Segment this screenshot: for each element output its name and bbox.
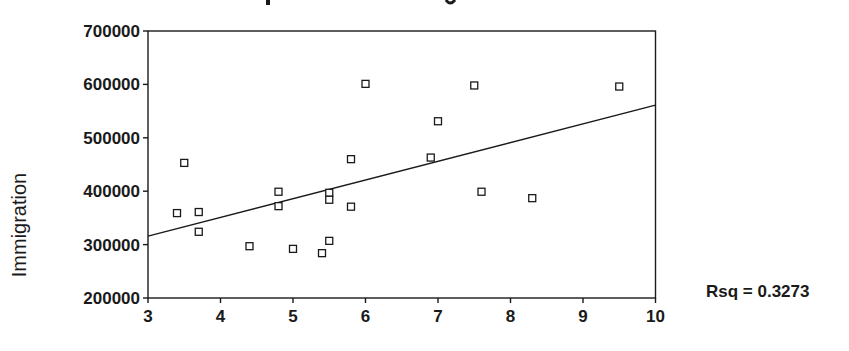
x-tick-label: 7 <box>433 307 442 326</box>
data-point-marker <box>478 188 485 195</box>
data-point-marker <box>427 154 434 161</box>
x-tick-label: 6 <box>361 307 370 326</box>
y-axis-label: Immigration <box>8 173 30 277</box>
data-point-marker <box>319 250 326 257</box>
y-tick-label: 300000 <box>83 236 140 255</box>
data-points <box>174 80 623 256</box>
data-point-marker <box>290 245 297 252</box>
data-point-marker <box>326 189 333 196</box>
plot-frame <box>148 31 656 298</box>
scatter-chart: 200000300000400000500000600000700000 345… <box>0 0 849 351</box>
y-tick-label: 200000 <box>83 289 140 308</box>
x-tick-label: 8 <box>506 307 515 326</box>
data-point-marker <box>348 203 355 210</box>
data-point-marker <box>174 210 181 217</box>
data-point-marker <box>435 118 442 125</box>
x-tick-label: 5 <box>288 307 297 326</box>
x-axis: 345678910 <box>143 298 665 326</box>
title-cropped <box>266 0 455 5</box>
x-tick-label: 10 <box>646 307 665 326</box>
data-point-marker <box>181 159 188 166</box>
rsq-annotation: Rsq = 0.3273 <box>706 282 810 301</box>
data-point-marker <box>326 237 333 244</box>
data-point-marker <box>326 196 333 203</box>
data-point-marker <box>275 188 282 195</box>
x-tick-label: 9 <box>578 307 587 326</box>
regression-line <box>148 105 656 236</box>
data-point-marker <box>471 82 478 89</box>
data-point-marker <box>616 83 623 90</box>
x-tick-label: 3 <box>143 307 152 326</box>
data-point-marker <box>348 156 355 163</box>
data-point-marker <box>195 228 202 235</box>
y-axis: 200000300000400000500000600000700000 <box>83 22 148 308</box>
y-tick-label: 600000 <box>83 75 140 94</box>
data-point-marker <box>246 243 253 250</box>
data-point-marker <box>195 209 202 216</box>
data-point-marker <box>275 203 282 210</box>
data-point-marker <box>529 195 536 202</box>
x-tick-label: 4 <box>216 307 226 326</box>
y-tick-label: 700000 <box>83 22 140 41</box>
data-point-marker <box>362 80 369 87</box>
y-tick-label: 400000 <box>83 182 140 201</box>
y-tick-label: 500000 <box>83 129 140 148</box>
fit-line <box>148 105 656 236</box>
